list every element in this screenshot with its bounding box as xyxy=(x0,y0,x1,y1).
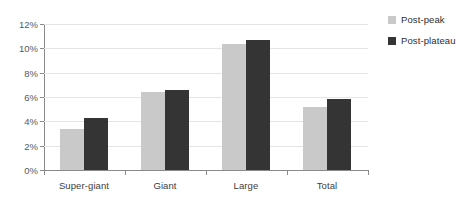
x-tick xyxy=(368,170,369,175)
chart-legend: Post-peak Post-plateau xyxy=(388,14,464,56)
y-tick-label-12: 12% xyxy=(2,19,38,30)
bar-post-plateau-super-giant xyxy=(84,118,108,170)
y-tick-label-6: 6% xyxy=(2,92,38,103)
bar-group-giant xyxy=(141,24,189,170)
x-label-giant: Giant xyxy=(153,180,176,191)
plot-area xyxy=(44,24,368,170)
bar-post-peak-total xyxy=(303,107,327,170)
bar-post-peak-super-giant xyxy=(60,129,84,170)
x-label-super-giant: Super-giant xyxy=(59,180,109,191)
legend-item-post-peak[interactable]: Post-peak xyxy=(388,14,464,25)
x-label-large: Large xyxy=(234,180,259,191)
x-tick xyxy=(125,170,126,175)
bar-post-plateau-large xyxy=(246,40,270,170)
bar-chart: 12% 10% 8% 6% 4% 2% 0% xyxy=(0,0,464,218)
bar-post-peak-giant xyxy=(141,92,165,170)
y-tick-label-8: 8% xyxy=(2,67,38,78)
legend-swatch-icon xyxy=(388,16,396,24)
bar-group-large xyxy=(222,24,270,170)
bar-post-plateau-giant xyxy=(165,90,189,170)
legend-swatch-icon xyxy=(388,37,396,45)
legend-item-post-plateau[interactable]: Post-plateau xyxy=(388,35,464,46)
bar-group-total xyxy=(303,24,351,170)
x-tick xyxy=(44,170,45,175)
bar-group-super-giant xyxy=(60,24,108,170)
y-tick-label-2: 2% xyxy=(2,140,38,151)
x-label-total: Total xyxy=(317,180,338,191)
y-tick-label-0: 0% xyxy=(2,165,38,176)
legend-label: Post-peak xyxy=(401,14,445,25)
bar-post-plateau-total xyxy=(327,99,351,170)
bar-post-peak-large xyxy=(222,44,246,170)
y-tick-label-4: 4% xyxy=(2,116,38,127)
legend-label: Post-plateau xyxy=(401,35,456,46)
y-tick-label-10: 10% xyxy=(2,43,38,54)
x-tick xyxy=(287,170,288,175)
x-tick xyxy=(206,170,207,175)
